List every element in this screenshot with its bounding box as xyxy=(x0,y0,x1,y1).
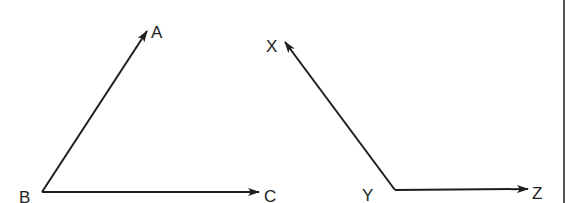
label-z: Z xyxy=(532,184,542,203)
diagram-canvas: A B C X Y Z xyxy=(0,0,567,203)
label-y: Y xyxy=(362,186,373,203)
label-b: B xyxy=(19,188,30,203)
ray-yx xyxy=(285,42,395,190)
angle-abc: A B C xyxy=(19,23,276,203)
angle-xyz: X Y Z xyxy=(266,37,542,203)
label-a: A xyxy=(151,23,163,42)
angles-diagram: A B C X Y Z xyxy=(0,0,567,203)
ray-ba xyxy=(42,31,147,192)
ray-yz xyxy=(395,189,528,190)
label-x: X xyxy=(266,37,277,56)
label-c: C xyxy=(264,187,276,203)
